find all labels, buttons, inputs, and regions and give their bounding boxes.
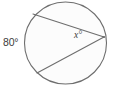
circle-inscribed-angle-figure: 80° x° bbox=[0, 0, 113, 87]
inscribed-angle-label: x° bbox=[74, 31, 82, 41]
right-vertex-point bbox=[103, 36, 105, 38]
circle-outline bbox=[25, 2, 107, 84]
arc-measure-label: 80° bbox=[3, 37, 18, 48]
